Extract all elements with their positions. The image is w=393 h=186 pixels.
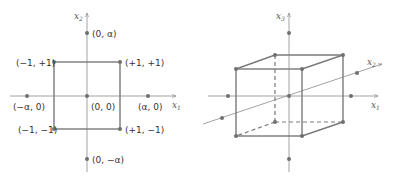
label-right-axial: (α, 0)	[138, 102, 162, 112]
x3-axis-3d-label: x3	[276, 11, 285, 22]
point-bottom-axial	[85, 157, 89, 161]
x1-axis-3d-label: x1	[371, 100, 380, 111]
label-bottom-left: (−1, −1)	[18, 125, 57, 135]
design-diagram: x1 x2 (0, α) (0, −α) (−α, 0) (α, 0) (0, …	[0, 0, 393, 186]
label-top-axial: (0, α)	[92, 29, 116, 39]
point-x2-near	[220, 116, 224, 120]
point-left-axial	[25, 94, 29, 98]
right-panel-3d-design: x1 x3 x2	[203, 11, 382, 172]
point-top-axial	[85, 31, 89, 35]
x1-axis-label: x1	[172, 100, 181, 111]
point-x1-right	[349, 94, 353, 98]
point-x3-top	[287, 31, 291, 35]
x2-axis-label: x2	[74, 11, 83, 22]
point-center	[85, 94, 89, 98]
label-left-axial: (−α, 0)	[13, 102, 45, 112]
point-top-right	[118, 60, 122, 64]
point-x3-bottom	[287, 157, 291, 161]
point-x2-far	[355, 71, 359, 75]
label-top-right: (+1, +1)	[125, 58, 164, 68]
label-bottom-axial: (0, −α)	[92, 155, 124, 165]
x2-axis-3d-label: x2	[367, 57, 376, 68]
label-top-left: (−1, +1)	[16, 58, 55, 68]
label-center: (0, 0)	[91, 102, 115, 112]
label-bottom-right: (+1, −1)	[125, 125, 164, 135]
point-x1-left	[226, 94, 230, 98]
left-panel-2d-design: x1 x2 (0, α) (0, −α) (−α, 0) (α, 0) (0, …	[10, 11, 181, 172]
point-bottom-right	[118, 127, 122, 131]
point-right-axial	[146, 94, 150, 98]
point-center-3d	[287, 94, 291, 98]
